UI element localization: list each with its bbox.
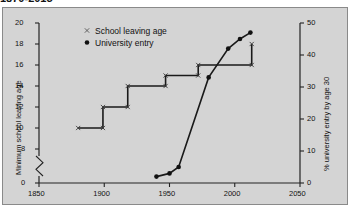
right-axis-tick-label: 30: [307, 82, 315, 91]
chart-plot-area: 0810121416182001020304050185019001950200…: [2, 7, 348, 205]
series-university-entry-marker: [226, 46, 231, 51]
series-university-entry-marker: [167, 171, 172, 176]
x-axis-tick-label: 2000: [224, 189, 241, 198]
legend-label: School leaving age: [95, 26, 167, 36]
right-axis-tick-label: 20: [307, 114, 315, 123]
series-university-entry-marker: [238, 37, 243, 42]
legend-label: University entry: [95, 38, 154, 48]
x-axis-tick-label: 1950: [159, 189, 176, 198]
left-axis-tick-label: 18: [15, 39, 23, 48]
right-axis-tick-label: 40: [307, 50, 315, 59]
left-axis-tick-label: 20: [15, 18, 23, 27]
series-university-entry-marker: [206, 75, 211, 80]
x-axis-tick-label: 2050: [289, 189, 306, 198]
right-axis-title: % university entry by age 30: [322, 77, 331, 171]
left-axis-title: Minimum school leaving age: [14, 80, 23, 175]
chart-svg: [3, 8, 347, 204]
right-axis-tick-label: 50: [307, 18, 315, 27]
left-axis-tick-label: 0: [21, 178, 25, 187]
chart-title: 1870-2015: [0, 0, 53, 4]
right-axis-tick-label: 10: [307, 146, 315, 155]
left-axis-tick-label: 16: [15, 60, 23, 69]
x-axis-tick-label: 1850: [28, 189, 45, 198]
left-axis-break-icon: [36, 156, 43, 176]
x-axis-tick-label: 1900: [93, 189, 110, 198]
series-university-entry-marker: [248, 30, 253, 35]
series-school-leaving-age-line: [78, 44, 252, 128]
right-axis-tick-label: 0: [307, 178, 311, 187]
series-university-entry-line: [156, 33, 250, 177]
legend-dot-marker-icon: [85, 40, 90, 45]
series-university-entry-marker: [176, 165, 181, 170]
series-university-entry-marker: [154, 174, 159, 179]
